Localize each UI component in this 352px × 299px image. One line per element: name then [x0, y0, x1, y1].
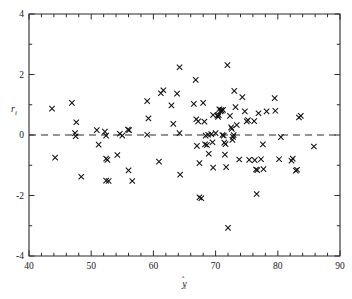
- y-tick-label: 0: [19, 130, 24, 140]
- residual-scatter-figure: 405060708090-4-2024 yˆi ri: [0, 0, 352, 299]
- x-tick-label: 40: [24, 261, 34, 271]
- y-tick-label: 2: [19, 70, 24, 80]
- x-tick-label: 70: [211, 261, 221, 271]
- y-tick-label: -2: [16, 191, 24, 201]
- residual-plot-svg: 405060708090-4-2024 yˆi ri: [0, 0, 352, 299]
- x-tick-label: 60: [149, 261, 159, 271]
- x-axis-label: yˆi: [181, 276, 187, 292]
- plot-background: [0, 0, 352, 299]
- x-tick-label: 50: [86, 261, 96, 271]
- x-tick-label: 80: [273, 261, 283, 271]
- y-tick-label: -4: [16, 251, 24, 261]
- y-tick-label: 4: [19, 9, 24, 19]
- x-tick-label: 90: [335, 261, 345, 271]
